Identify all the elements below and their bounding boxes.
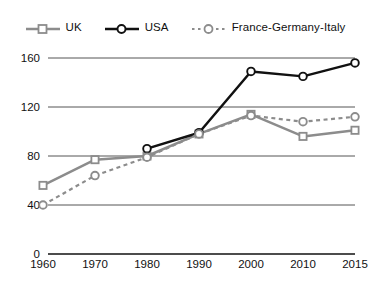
y-tick-label: 80 [27,150,40,162]
x-axis-tick-labels: 1960197019801990200020102015 [30,258,368,270]
data-point-marker [299,73,307,81]
data-point-marker [299,118,307,126]
x-tick-label: 2010 [290,258,316,270]
plot-area: 16012080400 1960197019801990200020102015 [0,0,370,289]
x-tick-label: 1960 [30,258,56,270]
series-usa [143,59,359,152]
data-point-marker [39,201,47,209]
series-france-germany-italy [39,112,359,209]
data-point-marker [299,133,306,140]
data-point-marker [351,113,359,121]
y-tick-label: 120 [21,101,40,113]
x-tick-label: 1970 [82,258,108,270]
x-tick-label: 2000 [238,258,264,270]
data-point-marker [247,68,255,76]
y-tick-label: 160 [21,52,40,64]
data-point-marker [195,130,203,138]
data-point-marker [351,127,358,134]
data-series-layer [39,59,359,209]
data-point-marker [143,153,151,161]
data-point-marker [91,172,99,180]
series-line [43,114,355,185]
data-point-marker [143,145,151,153]
series-uk [39,111,358,189]
data-point-marker [91,156,98,163]
data-point-marker [351,59,359,67]
data-point-marker [247,112,255,120]
data-point-marker [39,182,46,189]
y-tick-label: 40 [27,199,40,211]
y-axis-tick-labels: 16012080400 [21,52,40,260]
x-tick-label: 2015 [342,258,368,270]
x-tick-label: 1990 [186,258,212,270]
x-tick-label: 1980 [134,258,160,270]
line-chart: UK USA France-Germany-Italy 160120804 [0,0,370,289]
